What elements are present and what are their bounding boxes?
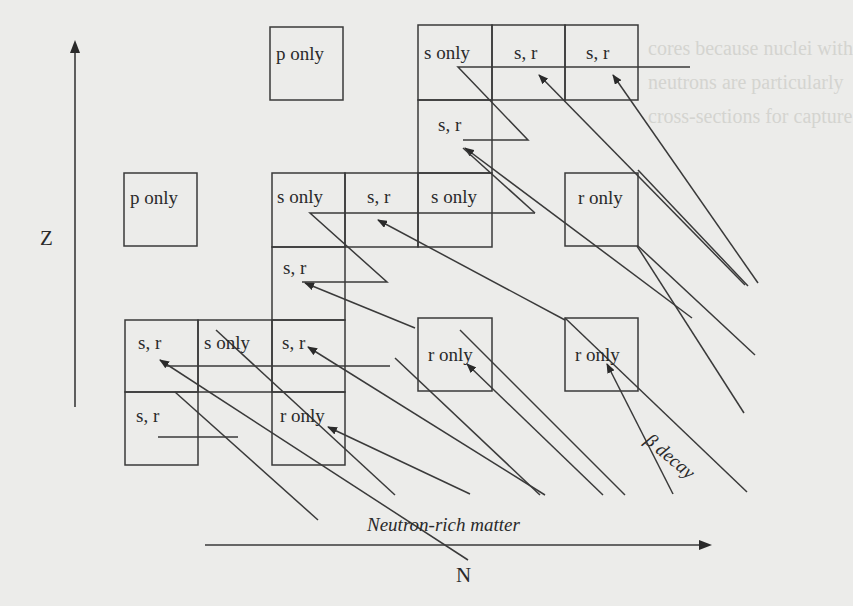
cell-s-r: s, r: [136, 406, 159, 425]
n-axis-arrowhead-icon: [699, 540, 712, 550]
cell-s-r: s, r: [514, 43, 537, 62]
cell-s-only: s only: [204, 333, 250, 352]
cell-s-r: s, r: [138, 333, 161, 352]
n-axis-label: N: [456, 565, 471, 586]
z-axis-arrowhead-icon: [70, 40, 80, 53]
neutron-rich-matter-label: Neutron-rich matter: [367, 515, 520, 534]
cell-s-r: s, r: [586, 43, 609, 62]
cell-boxes: [124, 25, 638, 465]
cell-s-r: s, r: [367, 187, 390, 206]
cell-r-only: r only: [428, 345, 473, 364]
cell-s-r: s, r: [282, 333, 305, 352]
z-axis-label: Z: [40, 228, 53, 249]
cell-p-only-upper: p only: [276, 44, 324, 63]
cell-s-only: s only: [431, 187, 477, 206]
cell-r-only: r only: [578, 188, 623, 207]
cell-r-only: r only: [575, 345, 620, 364]
cell-p-only-lower: p only: [130, 188, 178, 207]
cell-s-only: s only: [424, 43, 470, 62]
cell-s-r: s, r: [283, 258, 306, 277]
cell-s-r: s, r: [438, 115, 461, 134]
cell-r-only: r only: [280, 406, 325, 425]
s-process-path: [158, 67, 690, 437]
cell-s-only: s only: [277, 187, 323, 206]
